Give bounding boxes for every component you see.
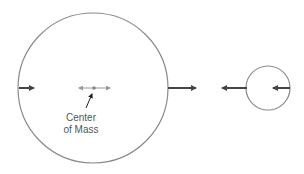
center-of-mass-marker — [79, 86, 110, 90]
diagram-canvas — [0, 0, 304, 174]
label-line-2: of Mass — [56, 124, 106, 136]
label-line-1: Center — [56, 112, 106, 124]
pointer-arrow — [86, 94, 92, 108]
center-of-mass-label: Center of Mass — [56, 112, 106, 136]
